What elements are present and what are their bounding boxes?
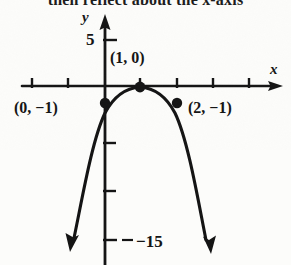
x-axis-label: x <box>270 62 278 77</box>
point-label-left: (0, −1) <box>14 100 58 116</box>
y-tick-label-minus-15: −15 <box>136 233 163 250</box>
curve-right-arrowhead <box>203 236 216 255</box>
y-axis-label: y <box>82 10 89 25</box>
coordinate-plot <box>0 0 291 265</box>
point-0-minus1 <box>100 98 110 108</box>
point-2-minus1 <box>172 98 182 108</box>
point-label-right: (2, −1) <box>188 100 232 116</box>
y-tick-label-5: 5 <box>86 31 95 48</box>
parabola-figure: then reflect about the x-axis <box>0 0 291 265</box>
point-label-vertex: (1, 0) <box>110 50 145 66</box>
point-1-0 <box>135 82 146 93</box>
curve-left-arrowhead <box>66 233 80 252</box>
